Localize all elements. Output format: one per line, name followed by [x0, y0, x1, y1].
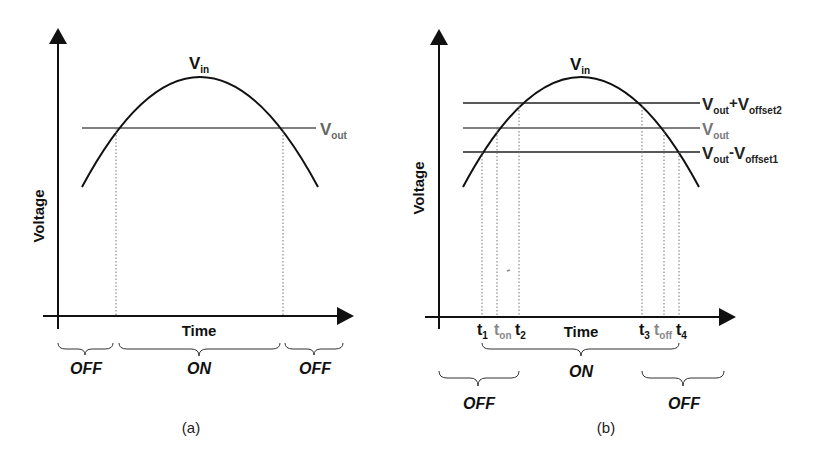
- vout-minus-offset1-label: Vout-Voffset1: [702, 143, 778, 165]
- region-label-off: OFF: [668, 395, 701, 412]
- panel-a: Voltage Time Vin Vout OFF ON OFF (a): [30, 28, 354, 436]
- time-mark-t3: t3: [639, 321, 650, 341]
- y-axis-arrow-icon: [49, 28, 67, 44]
- y-axis-label: Voltage: [30, 189, 47, 242]
- panel-b: Voltage Time Vin Vout+Voffset2 Vout Vout…: [410, 29, 782, 436]
- region-label-on: ON: [187, 360, 211, 377]
- vout-label: Vout: [702, 120, 730, 141]
- vout-plus-offset2-label: Vout+Voffset2: [702, 94, 782, 116]
- time-mark-toff: toff: [654, 321, 673, 341]
- brace-off-right: [642, 371, 724, 386]
- x-axis-arrow-icon: [719, 308, 736, 326]
- brace-off-left: [58, 343, 113, 355]
- panel-caption: (b): [597, 419, 615, 436]
- panel-caption: (a): [182, 419, 200, 436]
- y-axis-label: Voltage: [410, 161, 427, 214]
- vout-label: Vout: [320, 120, 348, 141]
- time-mark-t4: t4: [676, 321, 687, 341]
- stray-mark: [507, 270, 510, 271]
- region-label-on: ON: [569, 363, 593, 380]
- figure-canvas: Voltage Time Vin Vout OFF ON OFF (a): [0, 0, 819, 457]
- region-label-off: OFF: [299, 360, 332, 377]
- brace-off-left: [439, 371, 519, 386]
- x-axis-label: Time: [564, 323, 599, 340]
- time-mark-t2: t2: [515, 321, 526, 341]
- x-axis-arrow-icon: [337, 307, 354, 325]
- vin-label: Vin: [570, 55, 590, 76]
- brace-on: [119, 343, 280, 356]
- time-mark-ton: ton: [494, 321, 512, 341]
- x-axis-label: Time: [182, 322, 217, 339]
- vin-label: Vin: [189, 54, 209, 75]
- region-label-off: OFF: [70, 360, 103, 377]
- brace-on: [482, 343, 679, 356]
- region-label-off: OFF: [463, 395, 496, 412]
- brace-off-right: [285, 343, 343, 355]
- y-axis-arrow-icon: [430, 29, 448, 45]
- time-mark-t1: t1: [477, 321, 488, 341]
